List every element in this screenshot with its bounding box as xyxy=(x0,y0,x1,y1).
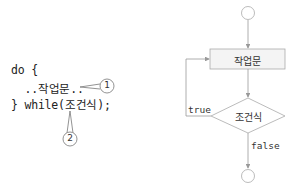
decision-label: 조건식 xyxy=(211,109,285,124)
code-line-body: ..작업문.. xyxy=(11,80,84,96)
false-label: false xyxy=(251,140,280,151)
code-line-while: } while(조건식); xyxy=(11,96,111,112)
process-label: 작업문 xyxy=(210,53,285,68)
callout-2-label: 2 xyxy=(63,133,77,143)
callout-1-label: 1 xyxy=(100,80,114,90)
end-node xyxy=(242,170,255,183)
code-line-do: do { xyxy=(11,63,38,77)
start-node xyxy=(242,7,255,20)
true-label: true xyxy=(188,104,211,115)
